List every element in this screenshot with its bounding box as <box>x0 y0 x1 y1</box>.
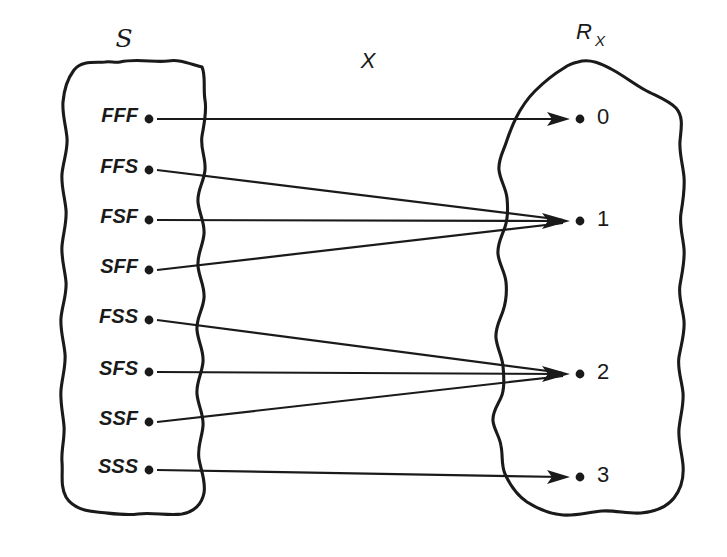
range-dot-3 <box>576 473 585 482</box>
domain-label-sss: SSS <box>98 455 139 477</box>
domain-dot-sfs <box>145 368 154 377</box>
range-dot-0 <box>576 115 585 124</box>
mapping-line-sss-3 <box>157 470 563 477</box>
range-dots-group <box>576 115 585 482</box>
range-label-3: 3 <box>597 462 609 487</box>
domain-label-sfs: SFS <box>99 357 139 379</box>
range-label-0: 0 <box>597 104 609 129</box>
mapping-line-fss-2 <box>157 320 563 373</box>
domain-set-title: S <box>115 24 132 53</box>
mapping-line-fsf-1 <box>157 220 563 221</box>
domain-dot-ssf <box>145 418 154 427</box>
domain-dot-sss <box>145 466 154 475</box>
range-labels-group: 0 1 2 3 <box>597 104 609 487</box>
range-dot-2 <box>576 370 585 379</box>
domain-labels-group: FFF FFS FSF SFF FSS SFS SSF SSS <box>98 104 139 477</box>
domain-dots-group <box>145 115 154 475</box>
mapping-diagram: FFF FFS FSF SFF FSS SFS SSF SSS 0 1 2 3 … <box>0 0 727 557</box>
domain-label-fss: FSS <box>99 305 139 327</box>
function-label: X <box>360 48 377 73</box>
range-label-1: 1 <box>597 206 609 231</box>
figure-canvas: FFF FFS FSF SFF FSS SFS SSF SSS 0 1 2 3 … <box>0 0 727 557</box>
domain-set-blob <box>61 60 206 514</box>
domain-dot-fsf <box>145 216 154 225</box>
domain-dot-fss <box>145 316 154 325</box>
mapping-line-sff-1 <box>157 223 563 270</box>
mapping-lines-group <box>157 112 570 484</box>
range-set-blob <box>493 61 684 515</box>
domain-label-fsf: FSF <box>100 205 139 227</box>
mapping-line-ssf-2 <box>157 376 563 422</box>
range-label-2: 2 <box>597 359 609 384</box>
domain-label-ssf: SSF <box>99 407 139 429</box>
domain-dot-ffs <box>145 166 154 175</box>
range-dot-1 <box>576 217 585 226</box>
range-set-title: R <box>576 19 592 44</box>
domain-dot-fff <box>145 115 154 124</box>
domain-label-fff: FFF <box>101 104 138 126</box>
domain-dot-sff <box>145 266 154 275</box>
range-set-title-subscript: X <box>594 32 606 49</box>
domain-label-sff: SFF <box>100 255 139 277</box>
domain-label-ffs: FFS <box>100 155 138 177</box>
